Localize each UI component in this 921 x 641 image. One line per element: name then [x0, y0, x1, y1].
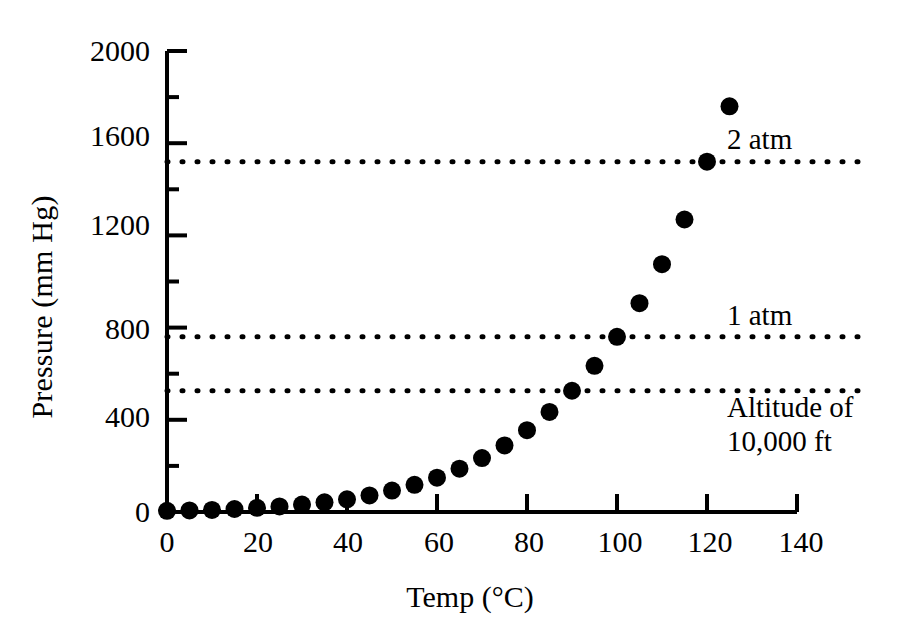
data-point	[226, 500, 244, 518]
data-point	[406, 476, 424, 494]
data-point	[676, 210, 694, 228]
data-point	[563, 382, 581, 400]
data-point	[541, 403, 559, 421]
tick-marks	[167, 51, 797, 512]
axis-lines	[167, 51, 797, 512]
data-point	[181, 501, 199, 519]
data-point	[316, 493, 334, 511]
data-point	[338, 490, 356, 508]
data-point	[496, 436, 514, 454]
data-point	[518, 421, 536, 439]
data-point	[608, 328, 626, 346]
data-point	[248, 499, 266, 517]
data-point	[631, 294, 649, 312]
data-point	[721, 97, 739, 115]
data-point	[473, 449, 491, 467]
data-point	[271, 497, 289, 515]
data-point	[293, 496, 311, 514]
data-point	[428, 469, 446, 487]
reference-lines	[167, 162, 860, 391]
data-point	[203, 501, 221, 519]
data-point	[653, 255, 671, 273]
data-point	[451, 460, 469, 478]
data-point	[158, 502, 176, 520]
vapor-pressure-chart: Pressure (mm Hg) Temp (°C) 2000 1600 120…	[0, 0, 921, 641]
plot-canvas	[0, 0, 921, 641]
data-point	[361, 486, 379, 504]
data-point	[383, 482, 401, 500]
data-point	[698, 153, 716, 171]
data-point	[586, 357, 604, 375]
